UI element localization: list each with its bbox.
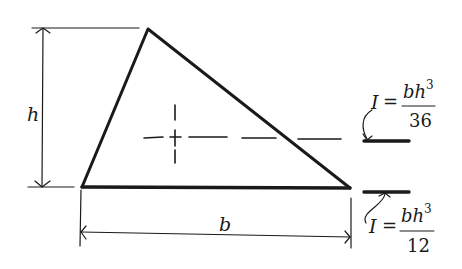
formula-numerator: bh (403, 81, 426, 102)
formula-centroidal: I = bh 3 36 (370, 78, 435, 131)
formula-lhs: I (368, 215, 377, 237)
formula-lhs: I (370, 91, 379, 113)
height-label: h (27, 103, 39, 125)
formula-numerator: bh (401, 205, 424, 226)
base-dimension (80, 190, 351, 248)
centroid-marker (144, 105, 181, 163)
formula-denominator: 36 (409, 110, 432, 131)
base-label: b (219, 213, 231, 235)
triangle-inertia-diagram: h b I = bh 3 36 I = bh (0, 0, 462, 269)
formula-exponent: 3 (424, 202, 432, 216)
formula-denominator: 12 (407, 235, 430, 256)
leader-arrow-icon (363, 134, 372, 140)
triangle-shape (82, 29, 350, 188)
height-dimension (28, 28, 139, 187)
leader-centroidal (363, 110, 372, 139)
centroidal-axis-dashed (189, 137, 341, 139)
formula-equals: = (382, 215, 397, 236)
formula-exponent: 3 (426, 78, 434, 92)
formula-equals: = (383, 91, 398, 112)
formula-base: I = bh 3 12 (368, 202, 434, 256)
